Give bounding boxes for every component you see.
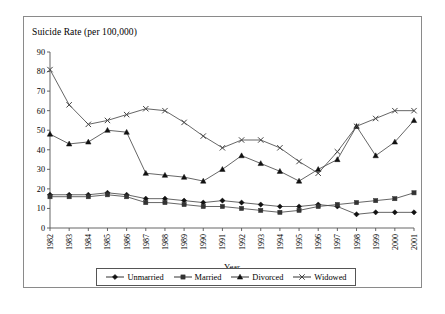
svg-text:1996: 1996 bbox=[314, 234, 323, 250]
chart-legend: UnmarriedMarriedDivorcedWidowed bbox=[96, 268, 356, 286]
square-marker bbox=[173, 272, 193, 282]
svg-text:50: 50 bbox=[37, 126, 45, 135]
legend-item-divorced: Divorced bbox=[230, 272, 283, 282]
svg-text:60: 60 bbox=[37, 107, 45, 116]
svg-text:1988: 1988 bbox=[161, 234, 170, 250]
svg-text:1989: 1989 bbox=[180, 234, 189, 250]
figure-container: Suicide Rate (per 100,000) 0102030405060… bbox=[0, 0, 445, 314]
svg-text:40: 40 bbox=[37, 146, 45, 155]
svg-text:1986: 1986 bbox=[123, 234, 132, 250]
legend-item-label: Divorced bbox=[252, 273, 283, 282]
svg-text:70: 70 bbox=[37, 87, 45, 96]
svg-text:1992: 1992 bbox=[238, 234, 247, 250]
legend-item-label: Widowed bbox=[314, 273, 346, 282]
svg-text:1997: 1997 bbox=[333, 234, 342, 250]
svg-text:0: 0 bbox=[41, 224, 45, 233]
svg-text:10: 10 bbox=[37, 204, 45, 213]
svg-text:1990: 1990 bbox=[199, 234, 208, 250]
svg-text:1991: 1991 bbox=[218, 234, 227, 250]
svg-text:1999: 1999 bbox=[372, 234, 381, 250]
legend-item-label: Unmarried bbox=[127, 273, 163, 282]
svg-text:1985: 1985 bbox=[103, 234, 112, 250]
legend-item-married: Married bbox=[173, 272, 222, 282]
svg-text:1994: 1994 bbox=[276, 234, 285, 250]
svg-text:90: 90 bbox=[37, 48, 45, 57]
cross-marker bbox=[292, 272, 312, 282]
svg-text:1995: 1995 bbox=[295, 234, 304, 250]
svg-text:2001: 2001 bbox=[410, 234, 419, 250]
line-chart-plot: 0102030405060708090198219831984198519861… bbox=[0, 0, 445, 314]
svg-text:1984: 1984 bbox=[84, 234, 93, 250]
svg-text:30: 30 bbox=[37, 165, 45, 174]
svg-text:1983: 1983 bbox=[65, 234, 74, 250]
svg-text:1998: 1998 bbox=[353, 234, 362, 250]
svg-text:80: 80 bbox=[37, 67, 45, 76]
diamond-marker bbox=[105, 272, 125, 282]
svg-text:2000: 2000 bbox=[391, 234, 400, 250]
legend-item-label: Married bbox=[195, 273, 222, 282]
svg-text:1982: 1982 bbox=[46, 234, 55, 250]
legend-item-unmarried: Unmarried bbox=[105, 272, 163, 282]
triangle-marker bbox=[230, 272, 250, 282]
svg-text:20: 20 bbox=[37, 185, 45, 194]
svg-text:1987: 1987 bbox=[142, 234, 151, 250]
legend-item-widowed: Widowed bbox=[292, 272, 346, 282]
svg-text:1993: 1993 bbox=[257, 234, 266, 250]
